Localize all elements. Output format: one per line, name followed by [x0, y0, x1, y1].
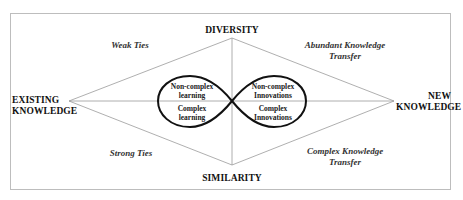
quadrant-label-abundant-knowledge-transfer: Abundant Knowledge Transfer [295, 40, 395, 62]
quadrant-top-right-line1: Abundant Knowledge [295, 40, 395, 51]
axis-label-new-knowledge: NEW KNOWLEDGE [396, 91, 451, 113]
axis-label-similarity: SIMILARITY [198, 173, 266, 184]
left-oval-upper-text: Non-complex learning [162, 82, 222, 100]
axis-label-existing-knowledge: EXISTING KNOWLEDGE [12, 95, 77, 117]
right-oval-upper-line2: Innovations [242, 91, 304, 100]
right-oval-lower-text: Complex Innovations [242, 104, 304, 122]
right-oval-upper-line1: Non-complex [242, 82, 304, 91]
axis-label-new-line2: KNOWLEDGE [396, 102, 451, 113]
left-oval-lower-line2: learning [162, 113, 222, 122]
quadrant-label-complex-knowledge-transfer: Complex Knowledge Transfer [295, 146, 395, 168]
quadrant-bottom-right-line1: Complex Knowledge [295, 146, 395, 157]
axis-label-new-line1: NEW [396, 91, 451, 102]
left-oval-upper-line2: learning [162, 91, 222, 100]
quadrant-top-right-line2: Transfer [295, 51, 395, 62]
axis-label-diversity: DIVERSITY [202, 25, 262, 36]
axis-label-existing-line1: EXISTING [12, 95, 77, 106]
quadrant-label-strong-ties: Strong Ties [98, 148, 164, 159]
axis-label-existing-line2: KNOWLEDGE [12, 106, 77, 117]
quadrant-bottom-right-line2: Transfer [295, 157, 395, 168]
quadrant-label-weak-ties: Weak Ties [100, 40, 160, 51]
left-oval-upper-line1: Non-complex [162, 82, 222, 91]
right-oval-lower-line2: Innovations [242, 113, 304, 122]
left-oval-lower-line1: Complex [162, 104, 222, 113]
right-oval-upper-text: Non-complex Innovations [242, 82, 304, 100]
left-oval-lower-text: Complex learning [162, 104, 222, 122]
right-oval-lower-line1: Complex [242, 104, 304, 113]
